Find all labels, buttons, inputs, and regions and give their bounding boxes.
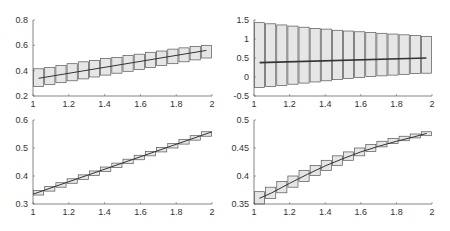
mean-line — [39, 50, 207, 78]
error-boxes — [34, 45, 212, 86]
x-tick-label: 1.2 — [63, 99, 76, 109]
x-tick-label: 1.2 — [283, 99, 296, 109]
y-tick-label: 1 — [244, 34, 249, 44]
figure: 11.21.41.61.820.20.40.60.8 11.21.41.61.8… — [0, 0, 450, 231]
error-box — [277, 25, 287, 85]
y-tick-label: 0.4 — [236, 171, 249, 181]
error-box — [421, 36, 431, 73]
x-tick-label: 2 — [209, 99, 214, 109]
y-tick-label: 0.4 — [15, 66, 28, 76]
error-box — [355, 32, 365, 78]
error-box — [399, 35, 409, 75]
x-tick-label: 1.4 — [319, 207, 332, 217]
y-tick-label: 1.5 — [236, 15, 249, 25]
x-tick-label: 1.8 — [170, 99, 183, 109]
x-tick-label: 1 — [30, 99, 35, 109]
y-tick-label: 0.8 — [15, 15, 28, 25]
x-tick-label: 1.6 — [134, 99, 147, 109]
x-tick-label: 1.8 — [390, 99, 403, 109]
x-tick-label: 2 — [429, 99, 434, 109]
error-box — [310, 28, 320, 82]
y-tick-label: 0.6 — [15, 40, 28, 50]
y-tick-label: 0.6 — [15, 115, 28, 125]
x-tick-label: 1 — [251, 99, 256, 109]
error-box — [266, 24, 276, 87]
error-box — [321, 29, 331, 81]
y-tick-label: 0.4 — [15, 171, 28, 181]
x-tick-label: 1.6 — [355, 99, 368, 109]
y-tick-label: 0.35 — [231, 199, 249, 209]
x-tick-label: 1.6 — [355, 207, 368, 217]
error-box — [332, 30, 342, 79]
error-box — [201, 45, 211, 58]
error-box — [377, 33, 387, 76]
y-tick-label: 0.5 — [15, 143, 28, 153]
x-tick-label: 1.8 — [390, 207, 403, 217]
error-box — [366, 33, 376, 77]
error-box — [388, 34, 398, 75]
x-tick-label: 1 — [30, 207, 35, 217]
error-boxes — [255, 23, 432, 88]
x-tick-label: 1.4 — [98, 99, 111, 109]
y-tick-label: 0.5 — [236, 53, 249, 63]
y-tick-label: 0.45 — [231, 143, 249, 153]
y-tick-label: 0.3 — [15, 199, 28, 209]
mean-line — [33, 132, 212, 194]
subplot-top-right: 11.21.41.61.82-0.500.511.5 — [233, 15, 434, 109]
x-tick-label: 1.2 — [283, 207, 296, 217]
error-box — [344, 31, 354, 79]
x-tick-label: 1.4 — [319, 99, 332, 109]
subplot-bottom-right: 11.21.41.61.820.350.40.450.5 — [231, 115, 434, 217]
y-tick-label: 0.2 — [15, 91, 28, 101]
subplot-bottom-left: 11.21.41.61.820.30.40.50.6 — [15, 115, 214, 217]
x-tick-label: 2 — [209, 207, 214, 217]
error-box — [288, 26, 298, 84]
error-boxes — [255, 132, 432, 204]
y-tick-label: 0 — [244, 72, 249, 82]
x-tick-label: 2 — [429, 207, 434, 217]
error-box — [299, 27, 309, 83]
x-tick-label: 1 — [251, 207, 256, 217]
x-tick-label: 1.2 — [63, 207, 76, 217]
error-box — [410, 36, 420, 74]
y-tick-label: 0.5 — [236, 115, 249, 125]
error-box — [255, 23, 265, 88]
x-tick-label: 1.4 — [98, 207, 111, 217]
subplot-top-left: 11.21.41.61.820.20.40.60.8 — [15, 15, 214, 109]
y-tick-label: -0.5 — [233, 91, 249, 101]
x-tick-label: 1.6 — [134, 207, 147, 217]
x-tick-label: 1.8 — [170, 207, 183, 217]
